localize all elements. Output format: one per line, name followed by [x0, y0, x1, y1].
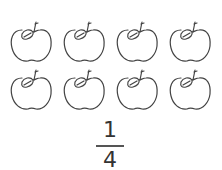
apple-icon: [114, 68, 160, 112]
apple-icon: [8, 68, 54, 112]
apple-icon: [8, 20, 54, 64]
apple-icon: [61, 20, 107, 64]
fraction-denominator: 4: [96, 149, 124, 170]
fraction: 1 4: [96, 118, 124, 170]
apple-icon: [61, 68, 107, 112]
apple-icon: [167, 68, 213, 112]
fraction-numerator: 1: [96, 118, 124, 142]
apple-icon: [167, 20, 213, 64]
apple-icon: [114, 20, 160, 64]
